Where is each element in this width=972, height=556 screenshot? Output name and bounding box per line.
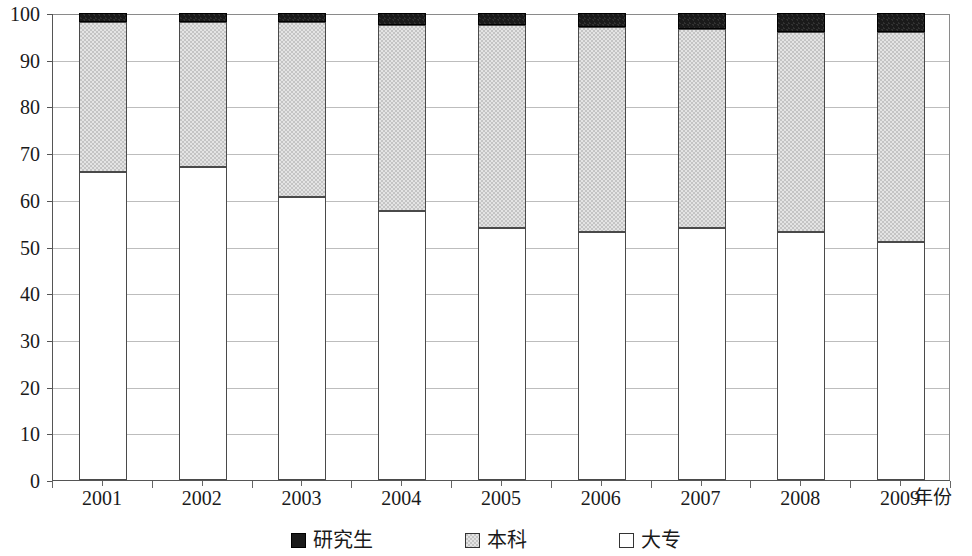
bar-group (877, 13, 925, 480)
bar-segment (678, 13, 726, 29)
bar-segment (877, 13, 925, 32)
x-axis-tick-label: 2007 (651, 487, 751, 509)
y-axis-tick-label: 0 (0, 471, 40, 491)
y-axis-labels: 0102030405060708090100 (0, 0, 46, 556)
bar-segment (179, 167, 227, 480)
y-axis-tick (47, 294, 53, 295)
bar-segment (179, 13, 227, 22)
legend-swatch-bachelor-icon (465, 533, 480, 548)
x-axis-title: 年份 (914, 487, 952, 508)
y-axis-tick-label: 30 (0, 331, 40, 351)
x-axis-tick-minor (701, 481, 702, 486)
x-axis-tick-label: 2004 (351, 487, 451, 509)
bar-segment (877, 32, 925, 242)
x-axis-tick-label: 2002 (152, 487, 252, 509)
bar-segment (378, 211, 426, 480)
y-axis-tick (47, 201, 53, 202)
x-axis-tick-label: 2006 (551, 487, 651, 509)
y-axis-tick (47, 154, 53, 155)
bar-group (179, 13, 227, 480)
bar-segment (678, 228, 726, 480)
x-axis-tick-label: 2003 (251, 487, 351, 509)
bar-segment (278, 22, 326, 197)
bar-segment (578, 27, 626, 232)
y-axis-tick (47, 14, 53, 15)
x-axis-tick-minor (401, 481, 402, 486)
bar-segment (777, 32, 825, 233)
y-axis-tick-label: 60 (0, 191, 40, 211)
y-axis-tick (47, 248, 53, 249)
x-axis-tick-label: 2005 (451, 487, 551, 509)
legend-item-yanjiusheng: 研究生 (291, 530, 373, 550)
bar-segment (378, 13, 426, 25)
x-axis-tick-minor (501, 481, 502, 486)
bar-group (378, 13, 426, 480)
x-axis-tick-minor (301, 481, 302, 486)
x-axis-tick-label: 2001 (52, 487, 152, 509)
x-axis-tick-minor (800, 481, 801, 486)
y-axis-tick-label: 40 (0, 284, 40, 304)
bar-segment (777, 232, 825, 480)
y-axis-tick-label: 70 (0, 144, 40, 164)
legend-swatch-college-icon (619, 533, 634, 548)
bar-segment (678, 29, 726, 227)
plot-right-edge (949, 14, 950, 480)
bar-segment (478, 13, 526, 25)
bar-segment (179, 22, 227, 167)
legend-label-bachelor: 本科 (487, 530, 527, 550)
bar-segment (79, 22, 127, 171)
legend-label-graduate: 研究生 (313, 530, 373, 550)
bar-group (777, 13, 825, 480)
legend-label-college: 大专 (641, 530, 681, 550)
y-axis-tick-label: 20 (0, 378, 40, 398)
bar-segment (578, 13, 626, 27)
y-axis-tick-label: 100 (0, 4, 40, 24)
bar-group (278, 13, 326, 480)
x-axis-tick-minor (202, 481, 203, 486)
bar-segment (79, 13, 127, 22)
y-axis-tick (47, 61, 53, 62)
y-axis-tick (47, 388, 53, 389)
x-axis-tick-minor (900, 481, 901, 486)
bar-segment (478, 228, 526, 480)
bar-segment (877, 242, 925, 480)
legend-swatch-graduate-icon (291, 533, 306, 548)
bar-group (79, 13, 127, 480)
plot-area (52, 14, 950, 481)
bar-segment (578, 232, 626, 480)
y-axis-tick-label: 90 (0, 51, 40, 71)
legend-item-dazhuan: 大专 (619, 530, 681, 550)
bar-segment (378, 25, 426, 212)
x-axis-tick-minor (102, 481, 103, 486)
chart-legend: 研究生 本科 大专 (0, 524, 972, 556)
y-axis-tick (47, 434, 53, 435)
legend-item-benke: 本科 (465, 530, 527, 550)
y-axis-tick (47, 107, 53, 108)
bar-group (678, 13, 726, 480)
bar-group (578, 13, 626, 480)
bar-group (478, 13, 526, 480)
x-axis-tick-label: 2008 (750, 487, 850, 509)
stacked-bar-chart: 0102030405060708090100 20012002200320042… (0, 0, 972, 556)
bar-segment (278, 197, 326, 480)
bar-segment (79, 172, 127, 480)
x-axis-tick-minor (601, 481, 602, 486)
bar-segment (278, 13, 326, 22)
y-axis-tick-label: 80 (0, 97, 40, 117)
y-axis-tick (47, 341, 53, 342)
bar-segment (777, 13, 825, 32)
bar-segment (478, 25, 526, 228)
y-axis-tick-label: 10 (0, 424, 40, 444)
y-axis-tick-label: 50 (0, 238, 40, 258)
